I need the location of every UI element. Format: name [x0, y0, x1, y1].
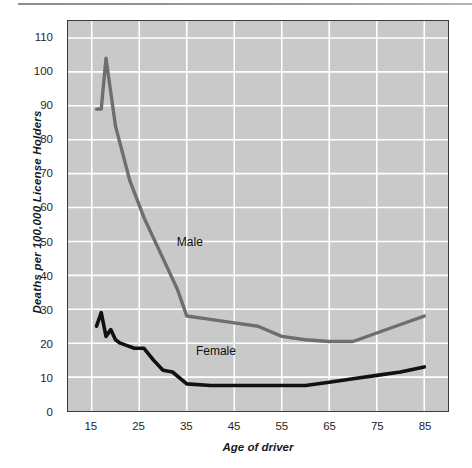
x-tick-label: 65: [310, 421, 350, 432]
series-lines: [68, 21, 448, 411]
x-tick-label: 55: [262, 421, 302, 432]
series-line-male: [97, 58, 425, 341]
chart-figure: 0102030405060708090100110 15253545556575…: [0, 0, 472, 468]
y-tick-label: 20: [19, 339, 53, 350]
x-tick-label: 25: [119, 421, 159, 432]
series-line-female: [97, 313, 425, 386]
y-tick-label: 110: [19, 32, 53, 43]
x-tick-label: 75: [357, 421, 397, 432]
series-label-male: Male: [177, 236, 203, 248]
y-tick-label: 10: [19, 373, 53, 384]
x-tick-label: 45: [214, 421, 254, 432]
y-tick-label: 0: [19, 407, 53, 418]
x-axis-title: Age of driver: [67, 441, 449, 453]
x-tick-label: 15: [71, 421, 111, 432]
series-label-female: Female: [196, 345, 236, 357]
plot-area: [67, 20, 449, 412]
y-tick-label: 100: [19, 66, 53, 77]
y-axis-title: Deaths per 100,000 License Holders: [31, 102, 43, 322]
x-tick-label: 85: [405, 421, 445, 432]
x-tick-label: 35: [166, 421, 206, 432]
